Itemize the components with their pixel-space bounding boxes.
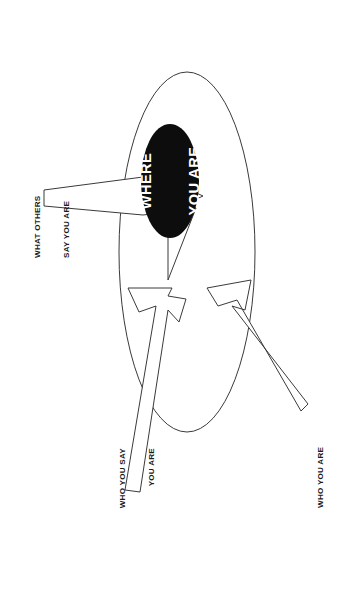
core-label: WHERE YOU ARE [106,121,234,241]
arrow-label-what-others-say-you-are: WHAT OTHERS SAY YOU ARE [14,162,91,258]
core-label-line-1: WHERE [138,121,154,241]
arrow-label-line-1: WHO YOU SAY [118,448,128,544]
arrow-label-who-you-are: WHO YOU ARE [297,412,341,508]
arrow-label-line-1: WHO YOU ARE [316,412,326,508]
figure-root: WHERE YOU ARE WHAT OTHERS SAY YOU ARE WH… [0,0,341,590]
arrow-label-line-2: SAY YOU ARE [62,162,72,258]
core-label-line-2: YOU ARE [186,121,202,241]
caption-text: These three satellites will lead you str… [312,41,341,277]
arrow-label-line-1: WHAT OTHERS [33,162,43,258]
arrow-label-line-2: YOU ARE [147,448,157,544]
arrow-label-who-you-say-you-are: WHO YOU SAY YOU ARE [99,448,176,544]
